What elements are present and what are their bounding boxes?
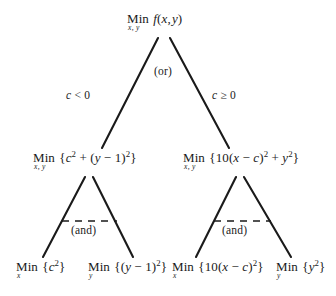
decision-tree-diagram: Min x, y f(x, y) (or) c < 0 c ≥ 0 Min x,… — [0, 0, 336, 296]
edge-right-to-leaf3 — [196, 177, 236, 257]
min-subscript-level2-right: x, y — [184, 163, 196, 171]
min-operator-leaf-1: Min x — [16, 260, 39, 274]
min-subscript-root: x, y — [128, 24, 140, 32]
node-leaf-2: Min y {(y − 1)2} — [88, 260, 167, 274]
node-leaf-3: Min x {10(x − c)2} — [172, 260, 264, 274]
min-subscript-leaf-4: y — [277, 272, 281, 280]
node-root: Min x, y f(x, y) — [127, 12, 182, 26]
min-subscript-leaf-1: x — [17, 272, 21, 280]
min-subscript-level2-left: x, y — [34, 163, 46, 171]
min-operator-leaf-3: Min x — [172, 260, 195, 274]
expression-root: f(x, y) — [153, 11, 182, 26]
edge-right-to-leaf4 — [244, 177, 291, 257]
expression-level2-left: {c2 + (y − 1)2} — [59, 150, 136, 165]
min-subscript-leaf-3: x — [173, 272, 177, 280]
tree-edges-layer — [0, 0, 336, 296]
min-operator-level2-right: Min x, y — [183, 151, 206, 165]
min-operator-leaf-2: Min y — [88, 260, 111, 274]
expression-leaf-2: {(y − 1)2} — [114, 259, 167, 274]
min-subscript-leaf-2: y — [89, 272, 93, 280]
node-leaf-1: Min x {c2} — [16, 260, 65, 274]
min-operator-leaf-4: Min y — [276, 260, 299, 274]
branch-label-left: c < 0 — [66, 89, 90, 101]
branch-label-right: c ≥ 0 — [212, 89, 236, 101]
and-connector-label-left: (and) — [71, 224, 96, 236]
min-operator-level2-left: Min x, y — [33, 151, 56, 165]
expression-leaf-3: {10(x − c)2} — [198, 259, 263, 274]
edge-left-to-leaf1 — [43, 177, 85, 257]
expression-leaf-1: {c2} — [42, 259, 65, 274]
and-connector-label-right: (and) — [222, 224, 247, 236]
node-leaf-4: Min y {y2} — [276, 260, 325, 274]
node-level2-right: Min x, y {10(x − c)2 + y2} — [183, 151, 299, 165]
or-connector-label: (or) — [154, 65, 172, 77]
edge-left-to-leaf2 — [93, 177, 133, 257]
expression-leaf-4: {y2} — [302, 259, 325, 274]
edge-root-to-left-or — [102, 38, 158, 148]
expression-level2-right: {10(x − c)2 + y2} — [209, 150, 299, 165]
min-operator-root: Min x, y — [127, 12, 150, 26]
node-level2-left: Min x, y {c2 + (y − 1)2} — [33, 151, 137, 165]
